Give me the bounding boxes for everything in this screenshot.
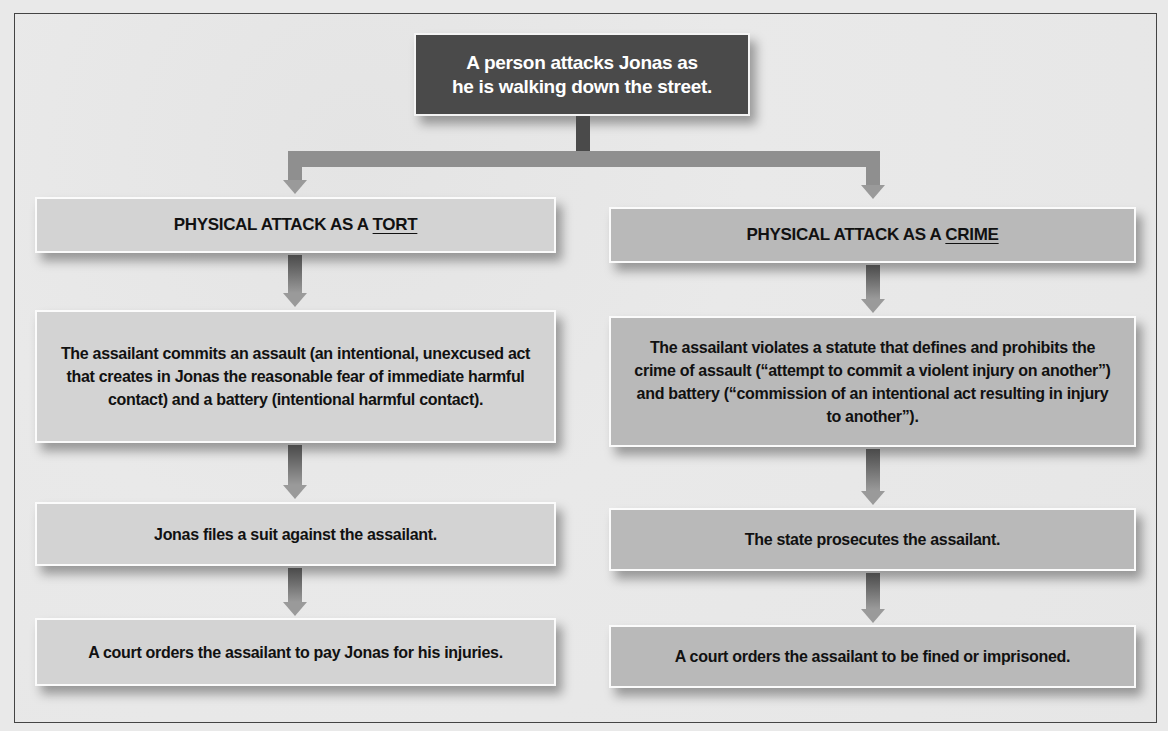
crime-step-1-text: The assailant violates a statute that de… bbox=[631, 336, 1114, 428]
root-event-line-2: he is walking down the street. bbox=[452, 75, 712, 99]
tort-arrow-3-icon bbox=[283, 602, 307, 616]
crime-arrow-3-shaft bbox=[866, 573, 880, 609]
crime-arrow-3-icon bbox=[861, 609, 885, 623]
crime-step-3-box: A court orders the assailant to be fined… bbox=[609, 625, 1136, 688]
tort-arrow-1-shaft bbox=[288, 255, 302, 293]
tort-arrow-2-shaft bbox=[288, 445, 302, 485]
tort-header-prefix: PHYSICAL ATTACK AS A bbox=[174, 215, 373, 234]
crime-arrow-2-shaft bbox=[866, 449, 880, 491]
tort-header-box: PHYSICAL ATTACK AS A TORT bbox=[35, 197, 556, 253]
crime-step-1-box: The assailant violates a statute that de… bbox=[609, 316, 1136, 447]
root-event-box: A person attacks Jonas as he is walking … bbox=[414, 33, 750, 116]
tort-header-keyword: TORT bbox=[373, 215, 418, 234]
crime-arrow-2-icon bbox=[861, 491, 885, 505]
tort-branch-arrow-shaft bbox=[288, 151, 302, 181]
crime-header-keyword: CRIME bbox=[945, 225, 998, 244]
tort-arrow-3-shaft bbox=[288, 568, 302, 602]
crime-header-prefix: PHYSICAL ATTACK AS A bbox=[746, 225, 945, 244]
root-stem-connector bbox=[576, 116, 590, 156]
tort-arrow-2-icon bbox=[283, 485, 307, 499]
crime-header-box: PHYSICAL ATTACK AS A CRIME bbox=[609, 207, 1136, 263]
tort-step-1-text: The assailant commits an assault (an int… bbox=[59, 342, 532, 411]
crime-arrow-1-icon bbox=[861, 299, 885, 313]
crime-arrow-1-shaft bbox=[866, 265, 880, 299]
crime-branch-arrow-shaft bbox=[866, 151, 880, 186]
tort-arrow-1-icon bbox=[283, 293, 307, 307]
branch-connector-bar bbox=[288, 151, 880, 167]
tort-step-1-box: The assailant commits an assault (an int… bbox=[35, 310, 556, 443]
tort-step-2-box: Jonas files a suit against the assailant… bbox=[35, 502, 556, 566]
tort-step-3-box: A court orders the assailant to pay Jona… bbox=[35, 618, 556, 686]
crime-branch-arrow-icon bbox=[861, 185, 885, 199]
tort-step-3-text: A court orders the assailant to pay Jona… bbox=[88, 641, 503, 664]
tort-branch-arrow-icon bbox=[283, 180, 307, 194]
tort-step-2-text: Jonas files a suit against the assailant… bbox=[154, 523, 437, 546]
crime-step-3-text: A court orders the assailant to be fined… bbox=[675, 645, 1070, 668]
crime-step-2-text: The state prosecutes the assailant. bbox=[745, 528, 1000, 551]
root-event-line-1: A person attacks Jonas as bbox=[452, 51, 712, 75]
crime-step-2-box: The state prosecutes the assailant. bbox=[609, 508, 1136, 571]
